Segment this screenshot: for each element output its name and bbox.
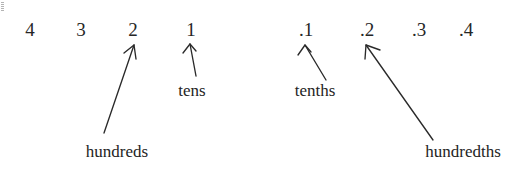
scan-artifact [1,2,4,11]
digit-tens: 2 [128,20,138,39]
place-value-diagram: 4 3 2 1 .1 .2 .3 .4 tens hundreds tenths… [0,0,509,172]
digit-ten-thousandths: .4 [459,20,473,39]
hundredths-arrow [365,45,433,140]
digit-ones: 1 [186,20,196,39]
tenths-arrow [298,45,326,80]
digit-thousands: 4 [25,20,35,39]
digit-tenths: .1 [299,20,313,39]
hundreds-arrow [104,45,136,133]
label-hundredths: hundredths [425,143,501,160]
label-tens: tens [178,82,205,99]
label-tenths: tenths [295,82,336,99]
tens-arrow [183,44,196,76]
digit-hundreds: 3 [76,20,86,39]
digit-thousandths: .3 [412,20,426,39]
label-hundreds: hundreds [86,143,148,160]
digit-hundredths: .2 [360,20,374,39]
